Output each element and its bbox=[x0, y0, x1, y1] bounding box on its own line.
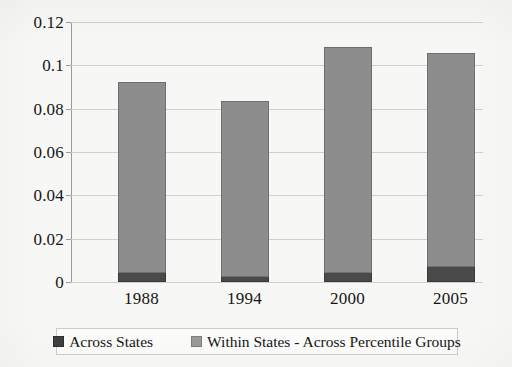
y-axis-tick bbox=[66, 109, 71, 110]
bar-column bbox=[118, 82, 166, 282]
bar-segment-across-states bbox=[427, 267, 475, 282]
y-axis-tick-label: 0.08 bbox=[4, 101, 64, 118]
y-axis-tick bbox=[66, 239, 71, 240]
x-axis-tick-label: 1988 bbox=[102, 290, 182, 307]
y-axis-tick bbox=[66, 195, 71, 196]
y-axis-tick-label: 0.06 bbox=[4, 144, 64, 161]
y-axis-tick bbox=[66, 282, 71, 283]
across-states-swatch-icon bbox=[53, 336, 64, 347]
y-axis-tick bbox=[66, 22, 71, 23]
y-axis-tick bbox=[66, 152, 71, 153]
gridline bbox=[71, 282, 483, 283]
gridline bbox=[71, 22, 483, 23]
chart-legend: Across States Within States - Across Per… bbox=[56, 328, 458, 355]
y-axis-tick-label: 0.1 bbox=[4, 57, 64, 74]
chart-figure: 00.020.040.060.080.10.12 198819942000200… bbox=[0, 0, 512, 367]
y-axis-tick-label: 0 bbox=[4, 274, 64, 291]
bar-segment-within-states bbox=[427, 53, 475, 266]
bar-segment-across-states bbox=[118, 273, 166, 282]
legend-label: Within States - Across Percentile Groups bbox=[207, 334, 461, 350]
bar-segment-within-states bbox=[221, 101, 269, 277]
x-axis-tick-label: 2005 bbox=[411, 290, 491, 307]
legend-label: Across States bbox=[69, 334, 153, 350]
y-axis-tick-label: 0.04 bbox=[4, 187, 64, 204]
bar-column bbox=[427, 53, 475, 282]
bar-segment-within-states bbox=[324, 47, 372, 273]
bar-column bbox=[221, 101, 269, 282]
bar-segment-across-states bbox=[324, 273, 372, 282]
bar-segment-across-states bbox=[221, 277, 269, 282]
y-axis-tick-label: 0.12 bbox=[4, 14, 64, 31]
x-axis-tick-label: 2000 bbox=[308, 290, 388, 307]
bar-column bbox=[324, 47, 372, 282]
x-axis-tick-label: 1994 bbox=[205, 290, 285, 307]
legend-item: Across States bbox=[53, 334, 153, 350]
plot-area bbox=[71, 22, 483, 283]
within-states-swatch-icon bbox=[191, 336, 202, 347]
y-axis-tick bbox=[66, 65, 71, 66]
bar-segment-within-states bbox=[118, 82, 166, 274]
y-axis-tick-label: 0.02 bbox=[4, 231, 64, 248]
gridline bbox=[71, 65, 483, 66]
legend-item: Within States - Across Percentile Groups bbox=[191, 334, 461, 350]
